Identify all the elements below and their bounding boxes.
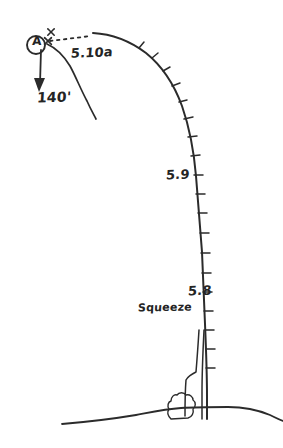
cliff-hatch-ticks	[139, 42, 215, 368]
ground-line-icon	[62, 407, 283, 424]
grade-label-top-pitch: 5.10a	[70, 45, 113, 59]
climbing-topo-diagram: A 140' 5.10a 5.9 5.8 Squeeze	[0, 0, 283, 448]
topo-drawing-canvas	[0, 0, 283, 448]
dashed-traverse-icon	[50, 36, 91, 41]
bush-icon	[168, 393, 195, 419]
cliff-tick-mark	[191, 155, 200, 156]
rappel-length-label: 140'	[37, 90, 72, 105]
feature-note-label: Squeeze	[138, 302, 192, 314]
grade-label-mid-pitch: 5.9	[166, 168, 190, 182]
anchor-label: A	[28, 35, 47, 47]
cliff-tick-mark	[163, 67, 170, 71]
cliff-tick-mark	[188, 136, 197, 137]
grade-label-low-pitch: 5.8	[188, 284, 212, 298]
cliff-tick-mark	[152, 53, 158, 58]
crack-line-left	[185, 330, 199, 416]
cliff-tick-mark	[139, 42, 144, 48]
bolt-x-icon	[48, 29, 54, 35]
cliff-profile-line	[93, 33, 207, 419]
crack-line-right	[202, 330, 204, 419]
